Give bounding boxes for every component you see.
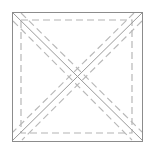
quilt-block-figure: Quilt block construction diagram Square … [0,0,155,152]
diagram-canvas: Quilt block construction diagram Square … [0,0,155,152]
